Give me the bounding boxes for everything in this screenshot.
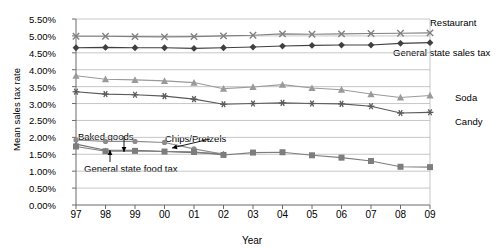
data-point xyxy=(279,43,286,50)
data-point xyxy=(250,101,257,107)
chart-container: Mean sales tax rate Year 0.00%0.50%1.00%… xyxy=(0,0,504,248)
data-point xyxy=(191,96,198,102)
data-point xyxy=(221,152,227,158)
data-point xyxy=(250,44,257,51)
data-point xyxy=(220,44,227,51)
data-point xyxy=(73,137,78,142)
data-point xyxy=(309,42,316,49)
data-point xyxy=(132,44,139,51)
data-point xyxy=(339,155,345,161)
data-point xyxy=(309,101,316,107)
data-point xyxy=(191,149,197,155)
data-point xyxy=(102,44,109,51)
data-point xyxy=(103,148,109,154)
data-point xyxy=(191,45,198,52)
annotation-leader-line xyxy=(172,139,210,148)
data-point xyxy=(132,92,139,98)
data-point xyxy=(161,93,168,99)
data-point xyxy=(280,149,286,155)
data-point xyxy=(398,164,404,170)
data-point xyxy=(103,139,108,144)
data-point xyxy=(279,100,286,106)
data-point xyxy=(397,110,404,116)
data-point xyxy=(250,150,256,156)
data-point xyxy=(102,91,109,97)
data-point xyxy=(132,148,138,154)
data-point xyxy=(427,39,434,46)
data-point xyxy=(72,72,79,79)
plot-area xyxy=(0,0,504,248)
data-point xyxy=(162,149,168,155)
data-point xyxy=(368,42,375,49)
data-point xyxy=(162,140,167,145)
data-point xyxy=(309,152,315,158)
data-point xyxy=(427,164,433,170)
data-point xyxy=(73,143,79,149)
data-point xyxy=(338,101,345,107)
data-point xyxy=(368,158,374,164)
data-point xyxy=(161,44,168,51)
data-point xyxy=(338,42,345,49)
data-point xyxy=(397,40,404,47)
data-point xyxy=(132,139,137,144)
data-point xyxy=(220,101,227,107)
data-point xyxy=(368,103,375,109)
data-point xyxy=(73,44,80,51)
